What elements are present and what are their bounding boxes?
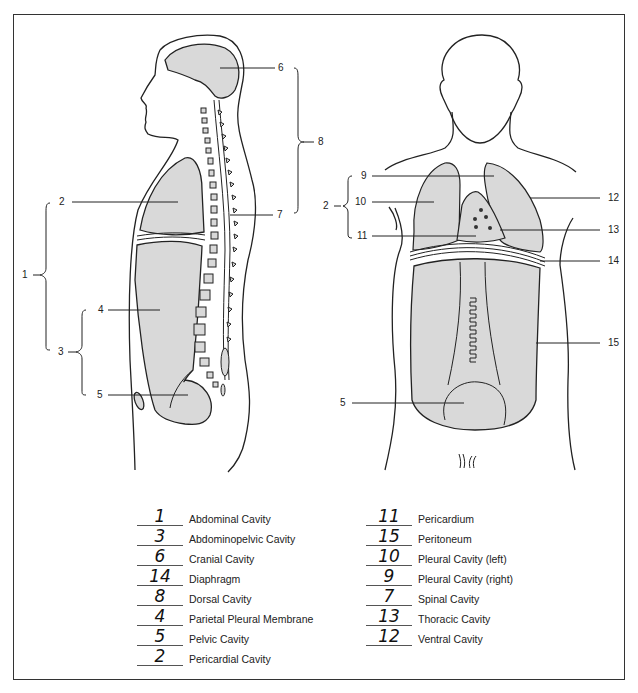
answer-row: 10 Pleural Cavity (left) xyxy=(366,546,507,566)
label-1: 1 xyxy=(22,270,28,280)
answer-field[interactable]: 14 xyxy=(137,568,183,586)
answer-row: 8 Dorsal Cavity xyxy=(137,586,251,606)
label-10: 10 xyxy=(355,197,366,207)
label-11: 11 xyxy=(357,231,367,241)
term-label: Cranial Cavity xyxy=(189,553,254,566)
answer-field[interactable]: 11 xyxy=(366,508,412,526)
label-13: 13 xyxy=(608,225,619,235)
answer-row: 15 Peritoneum xyxy=(366,526,472,546)
label-12: 12 xyxy=(608,193,619,203)
label-6: 6 xyxy=(278,63,284,73)
answer-row: 13 Thoracic Cavity xyxy=(366,606,490,626)
answer-row: 6 Cranial Cavity xyxy=(137,546,254,566)
label-8: 8 xyxy=(318,137,324,147)
answer-field[interactable]: 1 xyxy=(137,508,183,526)
answer-field[interactable]: 12 xyxy=(366,628,412,646)
peritoneal-cavity xyxy=(411,259,540,430)
term-label: Spinal Cavity xyxy=(418,593,479,606)
answer-field[interactable]: 13 xyxy=(366,608,412,626)
label-14: 14 xyxy=(608,256,619,266)
answer-field[interactable]: 5 xyxy=(137,628,183,646)
body-cavities-diagram xyxy=(0,0,638,693)
term-label: Pleural Cavity (right) xyxy=(418,573,513,586)
cranial-cavity-shape xyxy=(165,44,239,98)
answer-row: 5 Pelvic Cavity xyxy=(137,626,249,646)
answer-field[interactable]: 6 xyxy=(137,548,183,566)
term-label: Dorsal Cavity xyxy=(189,593,251,606)
label-4: 4 xyxy=(98,305,104,315)
term-label: Pericardial Cavity xyxy=(189,653,271,666)
thoracic-cavity-shape xyxy=(140,158,204,235)
answer-row: 4 Parietal Pleural Membrane xyxy=(137,606,313,626)
answer-row: 12 Ventral Cavity xyxy=(366,626,483,646)
answer-field[interactable]: 15 xyxy=(366,528,412,546)
answer-row: 11 Pericardium xyxy=(366,506,474,526)
term-label: Peritoneum xyxy=(418,533,472,546)
term-label: Ventral Cavity xyxy=(418,633,483,646)
spinal-cord xyxy=(214,100,225,380)
answer-field[interactable]: 3 xyxy=(137,528,183,546)
answer-field[interactable]: 4 xyxy=(137,608,183,626)
label-2-lateral: 2 xyxy=(59,197,65,207)
label-5-anterior: 5 xyxy=(340,398,346,408)
answer-field[interactable]: 2 xyxy=(137,648,183,666)
term-label: Pelvic Cavity xyxy=(189,633,249,646)
answer-row: 2 Pericardial Cavity xyxy=(137,646,271,666)
answer-row: 1 Abdominal Cavity xyxy=(137,506,271,526)
answer-row: 7 Spinal Cavity xyxy=(366,586,479,606)
answer-field[interactable]: 9 xyxy=(366,568,412,586)
label-5-lateral: 5 xyxy=(97,390,103,400)
term-label: Thoracic Cavity xyxy=(418,613,490,626)
label-9: 9 xyxy=(361,171,367,181)
term-label: Parietal Pleural Membrane xyxy=(189,613,313,626)
answer-row: 14 Diaphragm xyxy=(137,566,240,586)
answer-row: 3 Abdominopelvic Cavity xyxy=(137,526,295,546)
answer-field[interactable]: 10 xyxy=(366,548,412,566)
term-label: Pericardium xyxy=(418,513,474,526)
answer-field[interactable]: 7 xyxy=(366,588,412,606)
term-label: Abdominal Cavity xyxy=(189,513,271,526)
term-label: Pleural Cavity (left) xyxy=(418,553,507,566)
answer-field[interactable]: 8 xyxy=(137,588,183,606)
term-label: Abdominopelvic Cavity xyxy=(189,533,295,546)
label-7: 7 xyxy=(277,210,283,220)
label-2-anterior: 2 xyxy=(323,201,329,211)
answer-row: 9 Pleural Cavity (right) xyxy=(366,566,513,586)
label-15: 15 xyxy=(608,338,619,348)
label-3: 3 xyxy=(58,347,64,357)
term-label: Diaphragm xyxy=(189,573,240,586)
